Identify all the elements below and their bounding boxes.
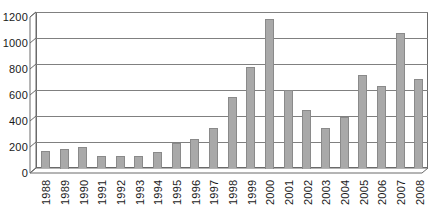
x-axis-tick-label: 1997 bbox=[208, 180, 220, 205]
x-axis-tick-label: 2008 bbox=[414, 180, 426, 205]
x-axis-tick-label: 2000 bbox=[264, 180, 276, 205]
x-axis-tick-label: 1994 bbox=[152, 180, 164, 205]
x-axis-tick-label: 1992 bbox=[115, 180, 127, 205]
x-axis-tick-label: 2002 bbox=[302, 180, 314, 205]
x-axis-tick-label: 2001 bbox=[283, 180, 295, 205]
x-axis-tick-label: 1988 bbox=[40, 180, 52, 205]
x-axis-tick-label: 1996 bbox=[190, 180, 202, 205]
x-axis-tick-label: 2006 bbox=[376, 180, 388, 205]
x-axis-tick-label: 1989 bbox=[59, 180, 71, 205]
x-axis: 1988198919901991199219931994199519961997… bbox=[0, 0, 442, 211]
x-axis-tick-label: 1999 bbox=[246, 180, 258, 205]
bar-chart: 020040060080010001200 198819891990199119… bbox=[0, 0, 442, 211]
x-axis-tick-label: 1993 bbox=[134, 180, 146, 205]
x-axis-tick-label: 2004 bbox=[339, 180, 351, 205]
x-axis-tick-label: 1991 bbox=[96, 180, 108, 205]
x-axis-tick-label: 1998 bbox=[227, 180, 239, 205]
x-axis-tick-label: 1990 bbox=[78, 180, 90, 205]
x-axis-tick-label: 2005 bbox=[358, 180, 370, 205]
x-axis-tick-label: 2003 bbox=[320, 180, 332, 205]
x-axis-tick-label: 2007 bbox=[395, 180, 407, 205]
x-axis-tick-label: 1995 bbox=[171, 180, 183, 205]
